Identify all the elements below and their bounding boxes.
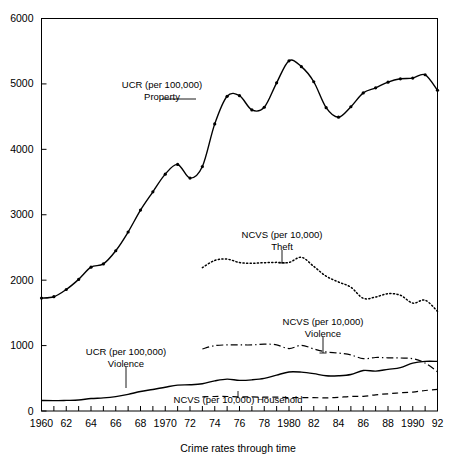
data-point-marker [65,288,68,291]
data-point-marker [349,105,352,108]
data-point-marker [77,278,80,281]
x-tick-label: 64 [85,417,97,429]
data-point-marker [436,89,439,92]
data-point-marker [312,80,315,83]
y-tick-label: 6000 [10,12,34,24]
x-tick-label: 1980 [277,417,301,429]
y-tick-label: 2000 [10,274,34,286]
y-tick-label: 4000 [10,143,34,155]
data-point-marker [139,209,142,212]
data-point-marker [188,176,191,179]
data-point-marker [238,94,241,97]
data-point-marker [411,76,414,79]
data-point-marker [213,122,216,125]
ncvs-theft-label-line2: Theft [271,241,293,252]
data-point-marker [287,59,290,62]
data-point-marker [114,249,117,252]
x-tick-label: 84 [333,417,345,429]
chart-canvas: 0100020003000400050006000 19606264666819… [0,0,458,465]
crime-rates-chart: 0100020003000400050006000 19606264666819… [0,0,458,465]
data-point-marker [250,108,253,111]
ucr-property-label-line2: Property [144,91,180,102]
x-tick-label: 66 [110,417,122,429]
data-point-marker [201,165,204,168]
ucr-violence-label-line2: Violence [108,358,144,369]
data-point-marker [176,163,179,166]
data-point-marker [424,73,427,76]
data-point-marker [300,65,303,68]
y-tick-label: 5000 [10,77,34,89]
data-point-marker [226,95,229,98]
x-tick-label: 1990 [401,417,425,429]
data-point-marker [337,116,340,119]
data-point-marker [362,91,365,94]
data-point-marker [275,81,278,84]
data-point-marker [263,106,266,109]
data-point-marker [325,106,328,109]
x-tick-label: 88 [382,417,394,429]
x-tick-label: 76 [234,417,246,429]
data-point-marker [102,262,105,265]
data-point-marker [386,81,389,84]
ncvs-violence-label-line2: Violence [305,328,341,339]
x-tick-label: 68 [135,417,147,429]
x-tick-label: 86 [357,417,369,429]
data-point-marker [89,266,92,269]
y-tick-label: 1000 [10,339,34,351]
x-tick-label: 62 [60,417,72,429]
ncvs-household-label: NCVS (per 10,000) Household [174,394,303,405]
data-point-marker [374,86,377,89]
ucr-violence-label-line1: UCR (per 100,000) [86,346,166,357]
data-point-marker [151,190,154,193]
data-point-marker [52,295,55,298]
data-point-marker [127,230,130,233]
x-tick-label: 1960 [30,417,54,429]
ncvs-violence-label-line1: NCVS (per 10,000) [283,316,364,327]
x-tick-label: 72 [184,417,196,429]
y-tick-label: 0 [28,405,34,417]
data-point-marker [399,77,402,80]
data-point-marker [40,296,43,299]
x-axis-title: Crime rates through time [180,442,296,454]
x-tick-label: 92 [432,417,444,429]
y-tick-label: 3000 [10,208,34,220]
data-point-marker [164,173,167,176]
x-tick-label: 74 [209,417,221,429]
ncvs-theft-label-line1: NCVS (per 10,000) [242,229,323,240]
x-axis-labels: 1960626466681970727476781980828486881990… [30,417,444,429]
x-tick-label: 1970 [154,417,178,429]
ucr-property-label-line1: UCR (per 100,000) [122,79,202,90]
x-tick-label: 82 [308,417,320,429]
x-tick-label: 78 [258,417,270,429]
